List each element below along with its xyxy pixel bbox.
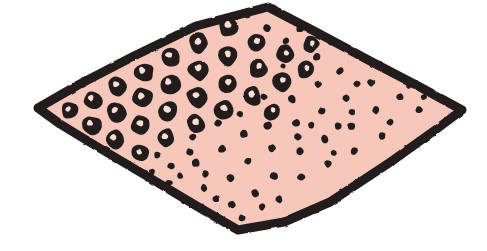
tissue-section-diagram — [0, 0, 487, 251]
figure-root — [0, 0, 487, 251]
punctate-mark — [335, 122, 342, 129]
punctate-mark — [379, 132, 386, 139]
